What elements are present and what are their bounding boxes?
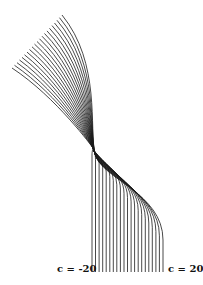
label-c-max: c = 20 — [168, 263, 203, 274]
label-c-min: c = -20 — [57, 263, 97, 274]
curve-c--4 — [32, 47, 120, 272]
curve-family — [12, 15, 163, 272]
curve-family-figure — [0, 0, 203, 285]
curve-c--12 — [22, 57, 106, 272]
curve-c-0 — [37, 42, 128, 273]
curve-c-14 — [55, 23, 153, 272]
